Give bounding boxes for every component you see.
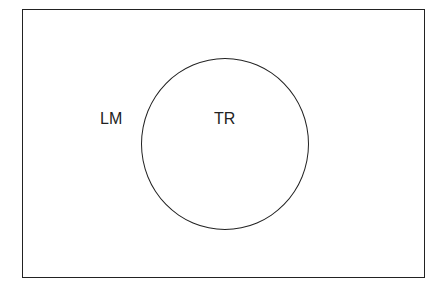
set-label-tr: TR <box>214 111 235 127</box>
set-circle-tr <box>141 58 309 230</box>
universe-label: LM <box>100 111 122 127</box>
